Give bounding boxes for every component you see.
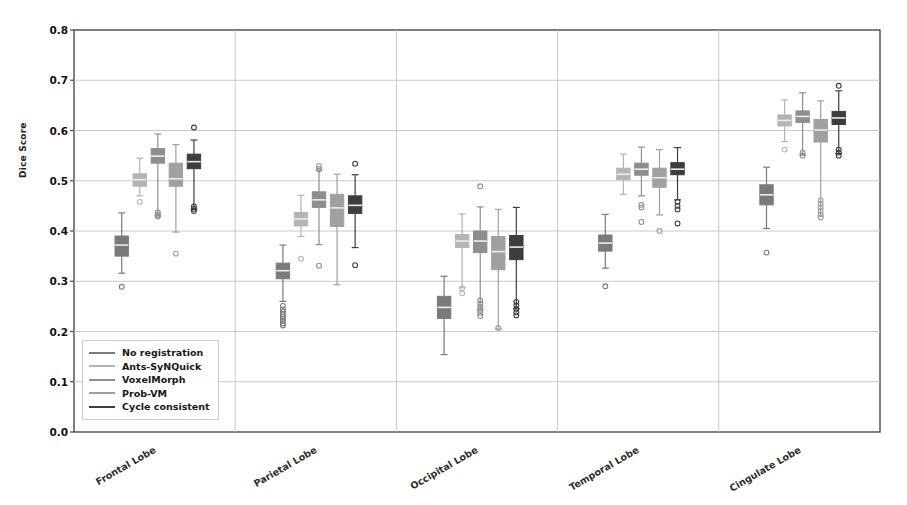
- y-tick-label: 0.1: [28, 376, 68, 388]
- y-tick-label: 0.6: [28, 125, 68, 137]
- legend-item[interactable]: Prob-VM: [89, 387, 210, 401]
- legend-item[interactable]: VoxelMorph: [89, 373, 210, 387]
- chart-legend: No registrationAnts-SyNQuickVoxelMorphPr…: [82, 340, 219, 420]
- y-tick-label: 0.7: [28, 74, 68, 86]
- legend-item-label: No registration: [122, 347, 203, 358]
- legend-item-label: Ants-SyNQuick: [122, 361, 201, 372]
- plot-canvas: [0, 0, 907, 505]
- legend-color-swatch: [89, 392, 115, 394]
- legend-color-swatch: [89, 406, 115, 408]
- legend-item-label: Cycle consistent: [122, 401, 210, 412]
- y-tick-label: 0.2: [28, 326, 68, 338]
- legend-item[interactable]: Cycle consistent: [89, 400, 210, 414]
- legend-item-label: VoxelMorph: [122, 374, 185, 385]
- y-tick-label: 0.0: [28, 426, 68, 438]
- legend-item[interactable]: Ants-SyNQuick: [89, 360, 210, 374]
- y-tick-label: 0.4: [28, 225, 68, 237]
- legend-color-swatch: [89, 365, 115, 367]
- boxplot-figure: [0, 0, 907, 505]
- legend-item[interactable]: No registration: [89, 346, 210, 360]
- y-tick-label: 0.3: [28, 275, 68, 287]
- legend-item-label: Prob-VM: [122, 388, 167, 399]
- y-tick-label: 0.5: [28, 175, 68, 187]
- legend-color-swatch: [89, 379, 115, 381]
- legend-color-swatch: [89, 352, 115, 354]
- y-tick-label: 0.8: [28, 24, 68, 36]
- y-axis-label: Dice Score: [18, 68, 28, 178]
- y-axis-ticks: 0.00.10.20.30.40.50.60.70.8: [22, 0, 68, 505]
